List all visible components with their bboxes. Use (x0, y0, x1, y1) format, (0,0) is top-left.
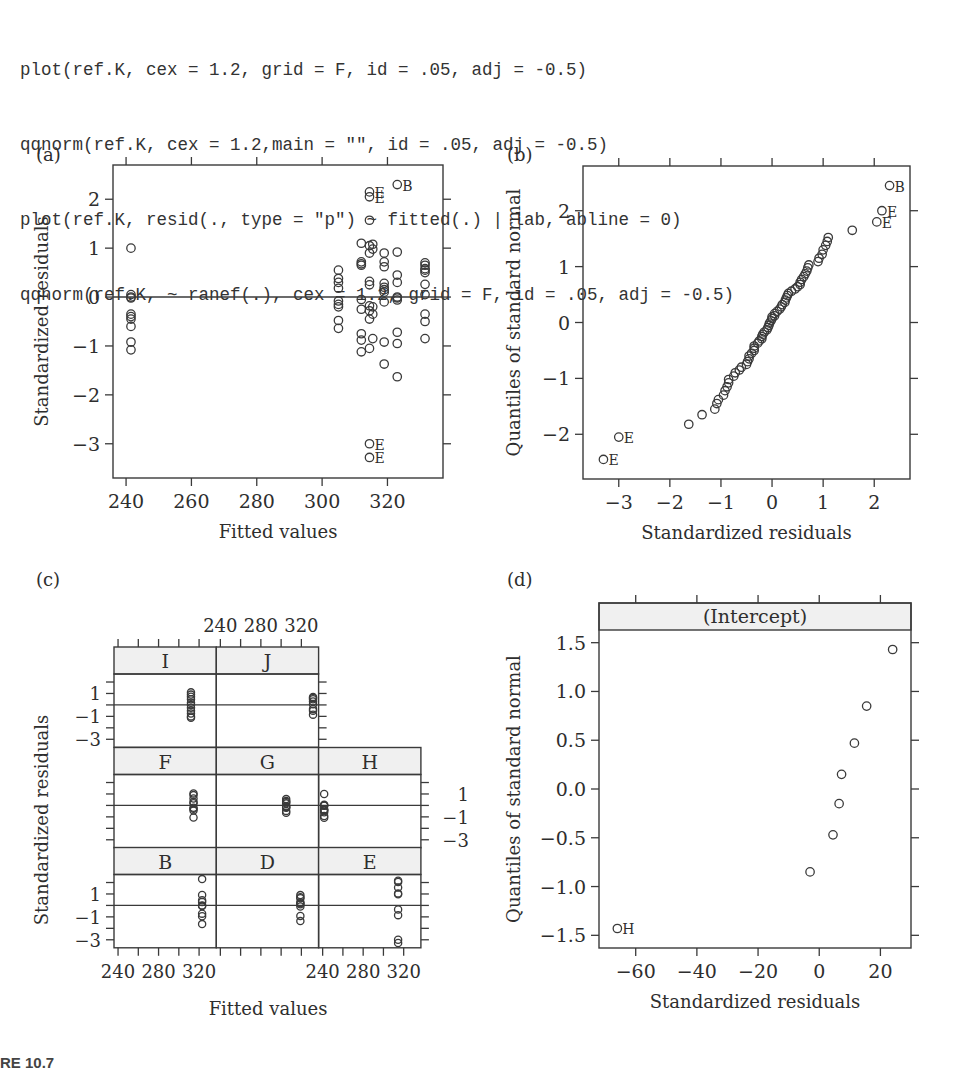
plot-frame (319, 775, 421, 848)
data-point (334, 316, 342, 324)
plot-frame (113, 165, 443, 478)
y-tick-label: 0.5 (556, 729, 586, 751)
y-tick-label: −3 (442, 830, 469, 851)
data-point (393, 339, 401, 347)
x-tick-label: 260 (173, 490, 209, 512)
x-tick-label: 280 (141, 961, 175, 982)
x-tick-label: 320 (182, 961, 216, 982)
data-point (599, 455, 607, 463)
data-point (685, 420, 693, 428)
y-axis-title: Standardized residuals (31, 715, 52, 926)
data-point (421, 280, 429, 288)
point-id-label: E (374, 190, 384, 206)
data-point (393, 248, 401, 256)
y-axis-title: Quantiles of standard normal (503, 188, 524, 456)
strip-label: (Intercept) (703, 605, 807, 627)
y-tick-label: −3 (74, 930, 101, 951)
panel-label: (b) (507, 144, 533, 165)
chart-d: (Intercept)−60−40−20020−1.5−1.0−0.50.00.… (503, 569, 919, 1012)
data-point (380, 258, 388, 266)
strip-label: B (158, 851, 172, 873)
y-tick-label: 1.0 (556, 680, 586, 702)
data-point (380, 298, 388, 306)
plot-frame (216, 775, 318, 848)
x-tick-label: −3 (605, 491, 633, 513)
data-point (873, 218, 881, 226)
data-point (365, 453, 373, 461)
x-axis-title: Fitted values (209, 998, 328, 1019)
data-point (835, 799, 843, 807)
data-point (829, 831, 837, 839)
x-tick-label: 0 (766, 491, 778, 513)
plot-frame (216, 674, 318, 747)
data-point (380, 249, 388, 257)
x-tick-label: 280 (346, 961, 380, 982)
data-point (357, 239, 365, 247)
y-tick-label: −1.5 (540, 924, 586, 946)
data-point (127, 244, 135, 252)
y-tick-label: −1 (74, 907, 101, 928)
point-id-label: E (887, 204, 897, 220)
y-axis-title: Quantiles of standard normal (503, 655, 524, 923)
x-tick-label: 0 (813, 960, 825, 982)
data-point (380, 338, 388, 346)
data-point (421, 334, 429, 342)
x-tick-label: 2 (868, 491, 880, 513)
data-point (615, 433, 623, 441)
strip-label: F (159, 751, 172, 773)
data-point (613, 924, 621, 932)
x-tick-label: 1 (817, 491, 829, 513)
figure-caption: RE 10.7 (0, 1054, 54, 1071)
x-tick-label: 20 (868, 960, 892, 982)
y-tick-label: −1 (74, 706, 101, 727)
y-tick-label: 1 (90, 683, 101, 704)
plot-frame (114, 875, 216, 948)
data-point (380, 360, 388, 368)
point-id-label: H (622, 921, 634, 937)
data-point (862, 702, 870, 710)
point-id-label: E (624, 430, 634, 446)
point-id-label: E (374, 450, 384, 466)
data-point (127, 346, 135, 354)
data-point (711, 405, 719, 413)
data-point (393, 373, 401, 381)
data-point (885, 181, 893, 189)
data-point (321, 790, 328, 797)
data-point (393, 328, 401, 336)
y-tick-label: 2 (558, 200, 570, 222)
x-axis-title: Standardized residuals (650, 991, 861, 1012)
y-tick-label: 1 (558, 256, 570, 278)
y-tick-label: 0 (558, 312, 570, 334)
y-tick-label: 0 (88, 286, 100, 308)
y-tick-label: −3 (72, 433, 100, 455)
data-point (837, 770, 845, 778)
x-axis-title: Standardized residuals (641, 522, 852, 543)
x-tick-label: −1 (707, 491, 735, 513)
data-point (365, 440, 373, 448)
y-tick-label: −2 (72, 384, 100, 406)
strip-label: D (260, 851, 275, 873)
data-point (888, 645, 896, 653)
y-tick-label: −3 (74, 729, 101, 750)
data-point (878, 207, 886, 215)
point-id-label: E (608, 452, 618, 468)
data-point (369, 334, 377, 342)
chart-a: 240260280300320−3−2−1012EEBEE(a)Fitted v… (31, 144, 451, 542)
plot-frame (114, 775, 216, 848)
y-tick-label: 1.5 (556, 632, 586, 654)
strip-label: I (161, 650, 169, 672)
data-point (698, 411, 706, 419)
x-tick-label: −60 (616, 960, 656, 982)
x-axis-title: Fitted values (219, 521, 338, 542)
y-tick-label: 2 (88, 188, 100, 210)
data-point (357, 305, 365, 313)
data-point (357, 336, 365, 344)
data-point (365, 344, 373, 352)
x-tick-label: −2 (656, 491, 684, 513)
chart-c: I−3−11J240280320FGH−3−11B−3−11240280320D… (31, 569, 469, 1019)
x-tick-label: 240 (108, 490, 144, 512)
x-tick-label: 320 (284, 615, 318, 636)
data-point (334, 266, 342, 274)
data-point (199, 875, 206, 882)
chart-b: −3−2−1012−2−1012EEEEB(b)Standardized res… (503, 144, 918, 543)
